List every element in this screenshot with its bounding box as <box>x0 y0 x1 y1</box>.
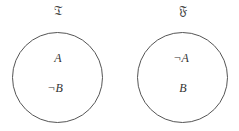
world-true-circle <box>12 32 103 123</box>
literal-a: A <box>38 51 78 66</box>
world-false-circle <box>137 32 228 123</box>
world-false-label: 𝔉 <box>168 3 198 19</box>
literal-b: B <box>163 81 203 96</box>
literal-not-b: ¬B <box>35 81 75 96</box>
world-true-label: 𝔗 <box>43 3 73 19</box>
literal-not-a: ¬A <box>161 51 201 66</box>
